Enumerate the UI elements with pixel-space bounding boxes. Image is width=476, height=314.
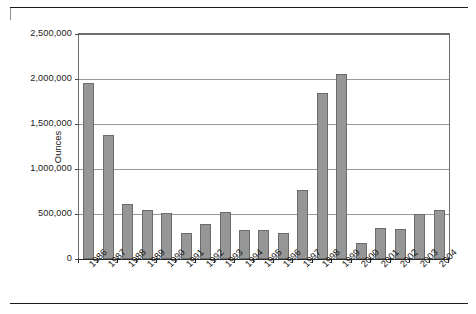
y-axis-tick-label: 1,500,000: [0, 118, 72, 128]
plot-area: Ounces: [78, 33, 450, 260]
x-axis-labels: 1986198719881989199019911992199319941995…: [78, 262, 448, 312]
bar: [317, 93, 328, 259]
y-axis-title: Ounces: [52, 130, 63, 162]
y-axis-tick-label: 2,500,000: [0, 28, 72, 38]
figure-container: 0500,0001,000,0001,500,0002,000,0002,500…: [0, 0, 476, 314]
bar: [83, 83, 94, 259]
y-axis-tick-label: 500,000: [0, 208, 72, 218]
bar: [103, 135, 114, 259]
bar: [336, 74, 347, 259]
y-axis-tick-label: 1,000,000: [0, 163, 72, 173]
y-axis-tick-label: 0: [0, 253, 72, 263]
top-rule: [10, 7, 468, 8]
bar-series: [79, 34, 449, 259]
y-axis-tick-label: 2,000,000: [0, 73, 72, 83]
bar: [297, 190, 308, 259]
bottom-rule: [10, 303, 468, 304]
